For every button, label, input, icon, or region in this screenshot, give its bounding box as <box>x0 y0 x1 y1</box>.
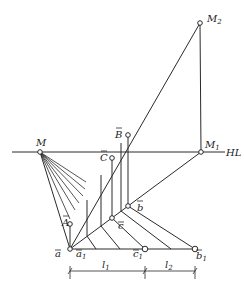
ground-trace-line <box>70 152 201 249</box>
measuring-line-3 <box>121 211 171 249</box>
label-b1: b1 <box>196 250 207 263</box>
point-B <box>126 133 131 138</box>
fan-line-2 <box>40 152 75 210</box>
vertical-plane-trace-line <box>70 23 200 249</box>
measuring-vertical-line <box>200 23 201 152</box>
label-l2: l2 <box>165 259 173 272</box>
point-M2 <box>198 21 203 26</box>
point-b <box>126 204 131 209</box>
point-a <box>68 247 73 252</box>
measuring-line-c-c1 <box>112 218 145 249</box>
label-M: M <box>35 137 47 148</box>
label-C: C <box>100 152 108 163</box>
fan-line-5 <box>40 152 85 189</box>
label-A: A <box>61 217 69 228</box>
point-c1 <box>142 246 148 252</box>
label-M1: M1 <box>204 139 220 152</box>
measuring-line-1 <box>87 236 96 249</box>
perspective-construction-diagram: M2 M1 HL M B C A b c a a1 c1 b1 l1 l2 <box>0 0 244 289</box>
point-M <box>38 150 43 155</box>
label-b: b <box>137 202 143 213</box>
label-HL: HL <box>225 147 242 158</box>
point-C <box>110 156 115 161</box>
point-c <box>110 216 115 221</box>
label-B: B <box>114 129 122 140</box>
label-l1: l1 <box>102 259 110 272</box>
label-M2: M2 <box>206 13 222 26</box>
point-M1 <box>199 150 204 155</box>
fan-line-M-a <box>40 152 70 249</box>
